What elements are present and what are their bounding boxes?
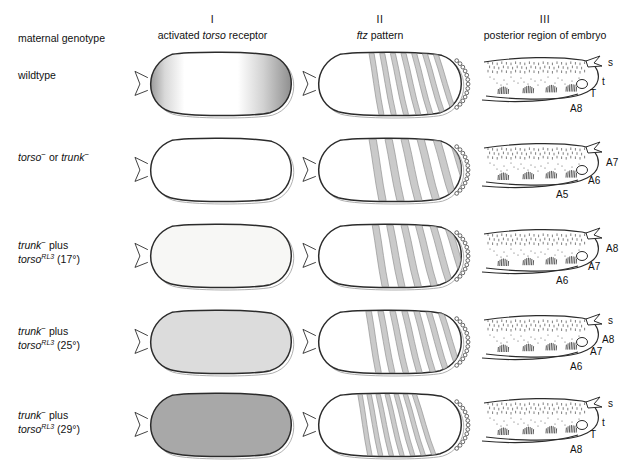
column-numeral-iii: III	[463, 13, 627, 26]
torso-receptor-embryo	[132, 388, 308, 464]
ftz-pattern-embryo	[300, 219, 478, 295]
column-header-ii: II ftz pattern	[295, 13, 465, 42]
cuticle-annotation: A6	[556, 275, 569, 286]
row-label-genotype: trunk− plustorsoRL3 (29°)	[18, 408, 80, 436]
cuticle-annotation: s	[608, 315, 613, 326]
column-header-iii: III posterior region of embryo	[463, 13, 627, 42]
posterior-cuticle-diagram: stTA8	[478, 385, 627, 457]
column-caption-iii: posterior region of embryo	[463, 29, 627, 42]
cuticle-annotation: A8	[570, 103, 583, 114]
ftz-pattern-embryo	[300, 305, 478, 381]
torso-receptor-embryo	[132, 133, 308, 209]
torso-receptor-embryo	[132, 305, 308, 381]
cuticle-annotation: A6	[570, 361, 583, 372]
cuticle-annotation: A5	[556, 189, 569, 200]
cuticle-annotation: A7	[588, 261, 601, 272]
ftz-pattern-embryo	[300, 133, 478, 209]
column-caption-ii: ftz pattern	[295, 29, 465, 42]
column-numeral-ii: II	[295, 13, 465, 26]
cuticle-annotation: A6	[588, 175, 601, 186]
cuticle-annotation: A8	[602, 334, 615, 345]
column-header-i: I activated torso receptor	[130, 13, 295, 42]
cuticle-annotation: s	[608, 57, 613, 68]
ftz-pattern-embryo	[300, 47, 478, 123]
cuticle-annotation: T	[590, 429, 596, 440]
row-label-genotype: trunk− plustorsoRL3 (25°)	[18, 324, 80, 352]
column-caption-i: activated torso receptor	[130, 29, 295, 42]
posterior-cuticle-diagram: A8A7A6	[478, 216, 627, 288]
posterior-cuticle-diagram: stTA8	[478, 44, 627, 116]
column-numeral-i: I	[130, 13, 295, 26]
torso-receptor-embryo	[132, 219, 308, 295]
cuticle-annotation: s	[608, 398, 613, 409]
row-label-genotype: trunk− plustorsoRL3 (17°)	[18, 238, 80, 266]
cuticle-annotation: A7	[606, 157, 619, 168]
maternal-genotype-label: maternal genotype	[18, 32, 105, 44]
torso-receptor-embryo	[132, 47, 308, 123]
cuticle-annotation: t	[602, 76, 605, 87]
cuticle-annotation: t	[602, 417, 605, 428]
posterior-cuticle-diagram: A7A6A5	[478, 130, 627, 202]
cuticle-annotation: A8	[570, 444, 583, 455]
cuticle-annotation: A8	[606, 243, 619, 254]
cuticle-annotation: T	[590, 88, 596, 99]
row-label-genotype: wildtype	[18, 68, 56, 82]
posterior-cuticle-diagram: sA8A7A6	[478, 302, 627, 374]
row-label-genotype: torso− or trunk−	[18, 150, 89, 164]
ftz-pattern-embryo	[300, 388, 478, 464]
figure-panel: maternal genotype I activated torso rece…	[0, 0, 627, 469]
cuticle-annotation: A7	[590, 346, 603, 357]
